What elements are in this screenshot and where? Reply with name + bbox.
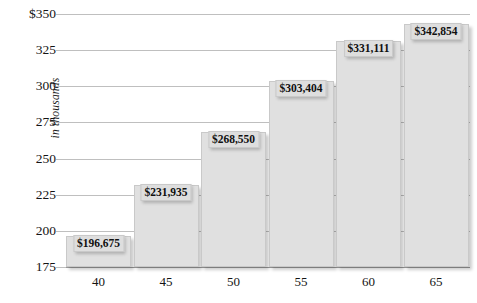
- bar: [336, 41, 401, 267]
- y-axis-tick-mark: [56, 50, 66, 51]
- bar: [201, 132, 266, 267]
- y-axis-tick-label: 250: [0, 151, 56, 167]
- bar-value-label: $231,935: [140, 184, 191, 201]
- gridline: [66, 14, 470, 15]
- bar: [404, 24, 469, 267]
- y-axis-tick-label: 225: [0, 187, 56, 203]
- bar-value-label: $331,111: [344, 40, 394, 57]
- x-axis-tick-label: 50: [201, 274, 266, 290]
- bar-value-label: $196,675: [73, 235, 124, 252]
- bar-chart: in thousands $350325300275250225200175 $…: [0, 0, 477, 303]
- axis-baseline: [66, 267, 470, 268]
- y-axis-tick-mark: [56, 231, 66, 232]
- y-axis-tick-mark: [56, 122, 66, 123]
- y-axis-tick-mark: [56, 14, 66, 15]
- plot-area: $196,675$231,935$268,550$303,404$331,111…: [66, 0, 470, 303]
- y-axis-tick-mark: [56, 195, 66, 196]
- bar-value-label: $268,550: [208, 131, 259, 148]
- x-axis-tick-label: 40: [66, 274, 131, 290]
- y-axis-tick-label: 275: [0, 114, 56, 130]
- y-axis-tick-label: 175: [0, 259, 56, 275]
- bar: [269, 81, 334, 267]
- y-axis-tick-labels: $350325300275250225200175: [0, 0, 56, 303]
- y-axis-tick-mark: [56, 267, 66, 268]
- x-axis-tick-label: 60: [336, 274, 401, 290]
- y-axis-tick-mark: [56, 159, 66, 160]
- y-axis-tick-label: 300: [0, 78, 56, 94]
- y-axis-tick-label: $350: [0, 6, 56, 22]
- bar-value-label: $303,404: [275, 80, 326, 97]
- y-axis-tick-label: 325: [0, 42, 56, 58]
- bar-value-label: $342,854: [410, 23, 461, 40]
- x-axis-tick-label: 45: [134, 274, 199, 290]
- y-axis-tick-mark: [56, 86, 66, 87]
- y-axis-tick-label: 200: [0, 223, 56, 239]
- x-axis-tick-label: 65: [404, 274, 469, 290]
- x-axis-tick-label: 55: [269, 274, 334, 290]
